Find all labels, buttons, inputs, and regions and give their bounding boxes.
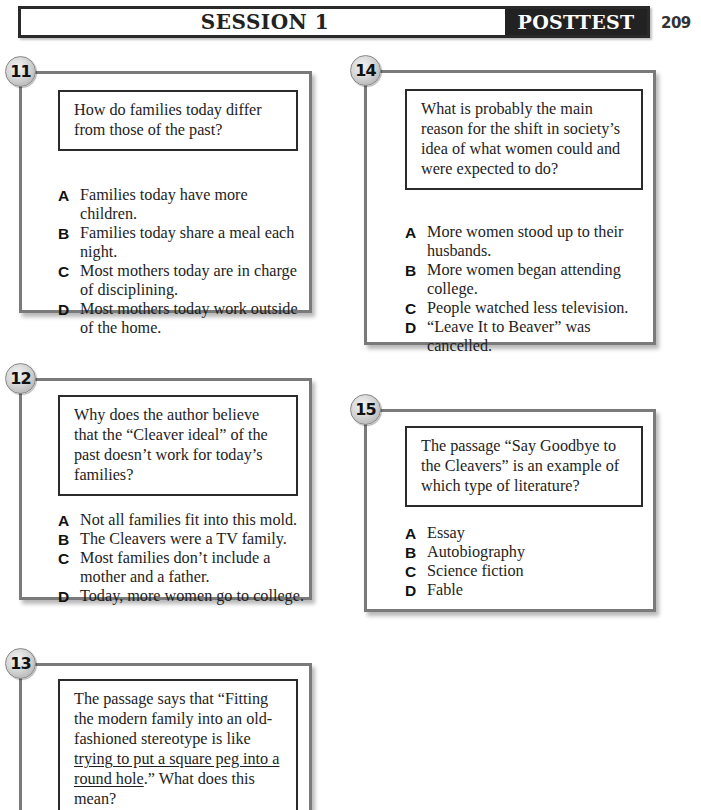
page-number: 209 bbox=[661, 14, 691, 32]
choice-letter: A bbox=[405, 223, 427, 261]
choice-text: More women stood up to their husbands. bbox=[427, 223, 650, 261]
posttest-label: POSTTEST bbox=[505, 9, 647, 35]
answer-choice-a[interactable]: A Not all families fit into this mold. bbox=[58, 511, 308, 530]
answer-choice-d[interactable]: D “Leave It to Beaver” was cancelled. bbox=[405, 318, 650, 356]
choice-text: More women began attending college. bbox=[427, 261, 650, 299]
choice-text: Families today share a meal each night. bbox=[80, 224, 308, 262]
question-stem: The passage “Say Goodbye to the Cleavers… bbox=[405, 426, 643, 507]
question-card-14: 14 What is probably the main reason for … bbox=[364, 70, 656, 345]
question-number-badge: 11 bbox=[5, 56, 36, 87]
answer-choice-d[interactable]: D Most mothers today work outside of the… bbox=[58, 300, 308, 338]
question-stem: What is probably the main reason for the… bbox=[405, 89, 643, 190]
choice-letter: B bbox=[405, 543, 427, 562]
choice-letter: A bbox=[405, 524, 427, 543]
page-header: SESSION 1 POSTTEST bbox=[18, 6, 650, 38]
question-number-badge: 13 bbox=[5, 648, 36, 679]
choice-letter: D bbox=[405, 581, 427, 600]
choice-letter: C bbox=[405, 299, 427, 318]
answer-choice-b[interactable]: B Autobiography bbox=[405, 543, 650, 562]
question-stem: The passage says that “Fitting the moder… bbox=[58, 679, 298, 810]
choice-letter: D bbox=[58, 300, 80, 338]
answer-choice-a[interactable]: A Families today have more children. bbox=[58, 186, 308, 224]
choice-letter: A bbox=[58, 186, 80, 224]
answer-choice-d[interactable]: D Fable bbox=[405, 581, 650, 600]
question-number-badge: 14 bbox=[350, 55, 381, 86]
question-card-11: 11 How do families today differ from tho… bbox=[19, 71, 312, 313]
answer-choice-b[interactable]: B More women began attending college. bbox=[405, 261, 650, 299]
answer-choice-c[interactable]: C Most families don’t include a mother a… bbox=[58, 549, 308, 587]
choice-text: Most mothers today work outside of the h… bbox=[80, 300, 308, 338]
question-stem: Why does the author believe that the “Cl… bbox=[58, 395, 298, 496]
question-stem: How do families today differ from those … bbox=[58, 90, 298, 151]
answer-choice-c[interactable]: C Science fiction bbox=[405, 562, 650, 581]
question-number-badge: 12 bbox=[5, 363, 36, 394]
choice-letter: B bbox=[405, 261, 427, 299]
session-title: SESSION 1 bbox=[21, 9, 509, 35]
choice-letter: A bbox=[58, 511, 80, 530]
answer-choice-c[interactable]: C Most mothers today are in charge of di… bbox=[58, 262, 308, 300]
stem-text-before: The passage says that “Fitting the moder… bbox=[74, 690, 272, 748]
choice-letter: C bbox=[405, 562, 427, 581]
choice-text: Fable bbox=[427, 581, 650, 600]
choice-text: Today, more women go to college. bbox=[80, 587, 308, 606]
choice-text: People watched less television. bbox=[427, 299, 650, 318]
question-card-15: 15 The passage “Say Goodbye to the Cleav… bbox=[364, 409, 656, 612]
answer-choice-b[interactable]: B Families today share a meal each night… bbox=[58, 224, 308, 262]
answer-choice-d[interactable]: D Today, more women go to college. bbox=[58, 587, 308, 606]
choice-letter: D bbox=[58, 587, 80, 606]
choice-letter: D bbox=[405, 318, 427, 356]
choice-letter: C bbox=[58, 549, 80, 587]
choice-text: Essay bbox=[427, 524, 650, 543]
answer-choices: A Not all families fit into this mold. B… bbox=[58, 511, 308, 606]
choice-letter: B bbox=[58, 224, 80, 262]
question-card-12: 12 Why does the author believe that the … bbox=[19, 378, 312, 600]
answer-choice-c[interactable]: C People watched less television. bbox=[405, 299, 650, 318]
answer-choice-a[interactable]: A Essay bbox=[405, 524, 650, 543]
answer-choices: A More women stood up to their husbands.… bbox=[405, 223, 650, 356]
choice-text: Most mothers today are in charge of disc… bbox=[80, 262, 308, 300]
choice-letter: C bbox=[58, 262, 80, 300]
answer-choice-b[interactable]: B The Cleavers were a TV family. bbox=[58, 530, 308, 549]
choice-text: Autobiography bbox=[427, 543, 650, 562]
choice-text: The Cleavers were a TV family. bbox=[80, 530, 308, 549]
choice-text: Science fiction bbox=[427, 562, 650, 581]
answer-choices: A Families today have more children. B F… bbox=[58, 186, 308, 338]
answer-choices: A Essay B Autobiography C Science fictio… bbox=[405, 524, 650, 600]
choice-text: Not all families fit into this mold. bbox=[80, 511, 308, 530]
choice-text: “Leave It to Beaver” was cancelled. bbox=[427, 318, 650, 356]
choice-letter: B bbox=[58, 530, 80, 549]
question-card-13: 13 The passage says that “Fitting the mo… bbox=[19, 663, 312, 810]
question-number-badge: 15 bbox=[350, 394, 381, 425]
answer-choice-a[interactable]: A More women stood up to their husbands. bbox=[405, 223, 650, 261]
choice-text: Most families don’t include a mother and… bbox=[80, 549, 308, 587]
choice-text: Families today have more children. bbox=[80, 186, 308, 224]
